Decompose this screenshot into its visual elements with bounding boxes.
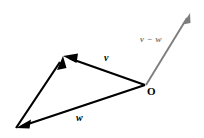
vector-label-v-minus-w: v − w (140, 35, 162, 44)
vector-label-v: v (104, 53, 108, 63)
vector-v-minus-w-arrowhead (183, 13, 191, 25)
vector-v-minus-w (146, 13, 191, 85)
vector-v-minus-w-shaft (146, 18, 187, 85)
origin-label: O (147, 86, 156, 97)
vector-label-w: w (76, 113, 83, 123)
vector-diagram-canvas (0, 0, 204, 138)
vector-v-arrowhead (63, 54, 78, 64)
vector-side (16, 56, 67, 128)
vector-side-shaft (16, 62, 60, 128)
vector-diagram-figure: v w v − w O (0, 0, 204, 138)
